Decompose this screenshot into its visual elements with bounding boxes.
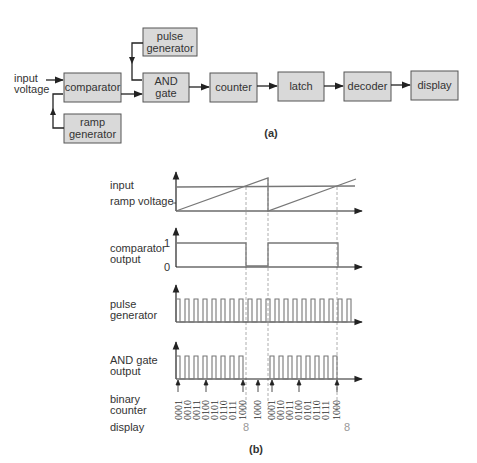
counter-value-reset: 1000 [252, 400, 263, 420]
caption-a: (a) [264, 127, 278, 139]
ramp-generator-block: ramp generator [64, 114, 121, 143]
display-digit: 8 [243, 421, 249, 433]
timing-diagram: input ramp voltage comparator output 1 0… [110, 172, 362, 455]
binary-row-label-2: counter [110, 404, 147, 416]
pulse-label-2: generator [146, 42, 193, 54]
comparator-row-label-2: output [110, 253, 141, 265]
level-0-label: 0 [164, 261, 170, 273]
and-label-1: AND [154, 75, 177, 87]
counter-arrows [176, 380, 339, 392]
display-block: display [411, 71, 458, 100]
ramp-label-1: ramp [80, 116, 105, 128]
counter-values: 0001 0010 0011 0100 0101 0110 0111 1000 … [173, 400, 342, 420]
decoder-label: decoder [348, 80, 388, 92]
block-diagram: input voltage comparator ramp generator … [14, 28, 458, 143]
level-1-label: 1 [164, 237, 170, 249]
latch-label: latch [289, 80, 312, 92]
pulse-label-1: pulse [157, 30, 183, 42]
latch-block: latch [278, 72, 324, 101]
pulse-generator-block: pulse generator [143, 28, 197, 56]
input-voltage-label-2: voltage [14, 83, 49, 95]
display-row-label: display [110, 421, 145, 433]
counter-label: counter [215, 81, 252, 93]
and-row-label-2: output [110, 365, 141, 377]
counter-block: counter [210, 73, 257, 102]
ramp-label-2: generator [69, 128, 116, 140]
and-gate-block: AND gate [143, 73, 189, 102]
pulse-row-label-2: generator [110, 309, 157, 321]
display-digit: 8 [344, 421, 350, 433]
adc-diagram: input voltage comparator ramp generator … [0, 0, 477, 463]
comparator-label: comparator [65, 81, 121, 93]
display-label: display [417, 79, 452, 91]
counter-value: 1000 [331, 400, 342, 420]
caption-b: (b) [249, 443, 263, 455]
and-label-2: gate [155, 87, 176, 99]
decoder-block: decoder [344, 72, 391, 101]
counter-value: 0111 [320, 401, 331, 420]
ramp-row-label: ramp voltage [110, 195, 174, 207]
counter-value: 1000 [237, 400, 248, 420]
comparator-block: comparator [64, 73, 121, 102]
input-row-label: input [110, 179, 134, 191]
